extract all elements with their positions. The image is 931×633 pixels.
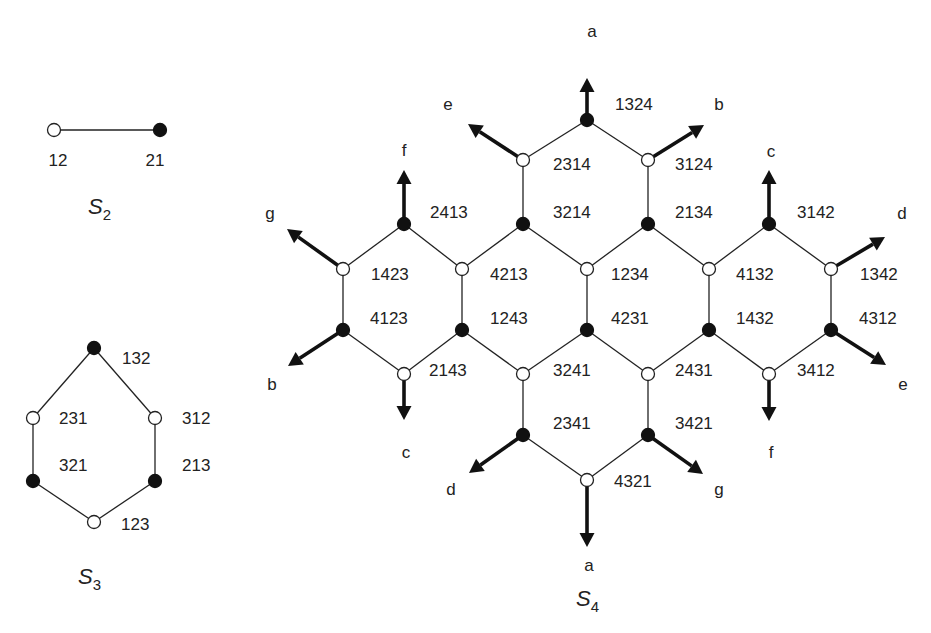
permutation-label: 3241 bbox=[553, 361, 591, 380]
open-node bbox=[581, 263, 594, 276]
arrow-label: a bbox=[584, 556, 594, 575]
arrow-shaft bbox=[300, 330, 343, 358]
permutation-label: 2341 bbox=[553, 414, 591, 433]
arrow-shaft bbox=[831, 330, 874, 357]
open-node bbox=[642, 368, 655, 381]
filled-node bbox=[88, 342, 101, 355]
permutation-label: 1423 bbox=[371, 265, 409, 284]
edge bbox=[587, 330, 648, 374]
open-node bbox=[48, 124, 61, 137]
open-node bbox=[88, 516, 101, 529]
filled-node bbox=[825, 324, 838, 337]
arrow-label: f bbox=[769, 443, 774, 462]
permutation-label: 1342 bbox=[860, 265, 898, 284]
filled-node bbox=[149, 475, 162, 488]
filled-node bbox=[642, 429, 655, 442]
arrowhead-icon bbox=[287, 229, 303, 243]
edge bbox=[587, 224, 648, 269]
edge bbox=[587, 120, 648, 160]
symmetric-group-graphs: 1221S2 132231312321213123S3 aebfcgdbecfd… bbox=[0, 0, 931, 633]
edge bbox=[404, 224, 462, 269]
permutation-label: 12 bbox=[49, 151, 68, 170]
edge bbox=[523, 224, 587, 269]
filled-node bbox=[337, 324, 350, 337]
permutation-label: 3214 bbox=[553, 203, 591, 222]
arrowhead-icon bbox=[762, 407, 777, 421]
permutation-label: 231 bbox=[59, 409, 87, 428]
arrow-label: b bbox=[267, 375, 276, 394]
permutation-label: 4312 bbox=[859, 309, 897, 328]
filled-node bbox=[517, 429, 530, 442]
arrow-label: g bbox=[714, 480, 723, 499]
permutation-label: 21 bbox=[146, 151, 165, 170]
edge bbox=[648, 224, 709, 269]
arrow-label: a bbox=[587, 22, 597, 41]
permutation-label: 4231 bbox=[611, 309, 649, 328]
arrowhead-icon bbox=[687, 460, 703, 474]
edge bbox=[523, 120, 587, 160]
arrowhead-icon bbox=[397, 170, 412, 184]
edge bbox=[709, 330, 769, 374]
open-node bbox=[703, 263, 716, 276]
filled-node bbox=[642, 218, 655, 231]
panel-title: S4 bbox=[576, 586, 599, 615]
permutation-label: 4132 bbox=[736, 265, 774, 284]
open-node bbox=[825, 263, 838, 276]
arrow-label: c bbox=[767, 142, 776, 161]
edge bbox=[343, 224, 404, 269]
open-node bbox=[642, 154, 655, 167]
open-node bbox=[149, 412, 162, 425]
arrowhead-icon bbox=[580, 78, 595, 92]
open-node bbox=[763, 368, 776, 381]
arrow-label: d bbox=[446, 480, 455, 499]
open-node bbox=[337, 263, 350, 276]
filled-node bbox=[456, 324, 469, 337]
permutation-label: 1243 bbox=[490, 309, 528, 328]
arrow-label: f bbox=[402, 141, 407, 160]
arrow-label: e bbox=[898, 375, 907, 394]
arrowhead-icon bbox=[469, 459, 485, 473]
permutation-label: 4123 bbox=[370, 309, 408, 328]
edge bbox=[769, 224, 831, 269]
permutation-label: 3142 bbox=[797, 203, 835, 222]
open-node bbox=[517, 368, 530, 381]
permutation-label: 1432 bbox=[736, 309, 774, 328]
permutation-label: 132 bbox=[122, 349, 150, 368]
arrowhead-icon bbox=[762, 170, 777, 184]
permutation-label: 2143 bbox=[429, 361, 467, 380]
open-node bbox=[517, 154, 530, 167]
edge bbox=[523, 435, 587, 480]
permutation-label: 1234 bbox=[611, 265, 649, 284]
permutation-label: 321 bbox=[59, 456, 87, 475]
arrow-shaft bbox=[648, 435, 692, 466]
filled-node bbox=[398, 218, 411, 231]
permutation-label: 4321 bbox=[614, 472, 652, 491]
open-node bbox=[27, 412, 40, 425]
edge bbox=[343, 330, 404, 374]
panel-s2: 1221S2 bbox=[48, 124, 167, 224]
panel-s3: 132231312321213123S3 bbox=[27, 342, 211, 594]
permutation-label: 3421 bbox=[675, 414, 713, 433]
open-node bbox=[581, 474, 594, 487]
filled-node bbox=[581, 324, 594, 337]
permutation-label: 213 bbox=[182, 456, 210, 475]
arrow-label: e bbox=[443, 95, 452, 114]
arrow-label: c bbox=[402, 443, 411, 462]
arrow-label: b bbox=[714, 95, 723, 114]
edges bbox=[33, 348, 155, 522]
permutation-label: 2134 bbox=[675, 203, 713, 222]
filled-node bbox=[517, 218, 530, 231]
filled-node bbox=[154, 124, 167, 137]
permutation-label: 123 bbox=[121, 515, 149, 534]
permutation-label: 2314 bbox=[553, 155, 591, 174]
filled-node bbox=[581, 114, 594, 127]
panel-title: S2 bbox=[88, 194, 111, 223]
arrow-shaft bbox=[480, 435, 523, 465]
permutation-label: 3124 bbox=[675, 155, 713, 174]
filled-node bbox=[27, 475, 40, 488]
arrowhead-icon bbox=[397, 406, 412, 420]
edge bbox=[33, 481, 94, 522]
nodes: 1324231431243214213424133142142342131234… bbox=[337, 95, 898, 491]
edge bbox=[462, 224, 523, 269]
arrowhead-icon bbox=[580, 533, 595, 547]
